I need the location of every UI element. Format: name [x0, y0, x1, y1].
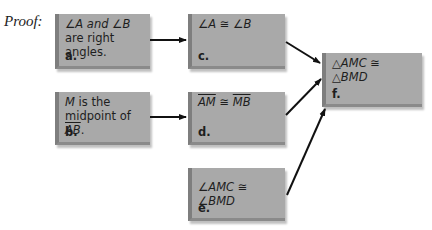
arrow-c-to-f	[286, 42, 320, 63]
arrow-e-to-f	[287, 109, 325, 195]
arrows-layer	[0, 0, 432, 230]
arrow-d-to-f	[286, 79, 321, 115]
